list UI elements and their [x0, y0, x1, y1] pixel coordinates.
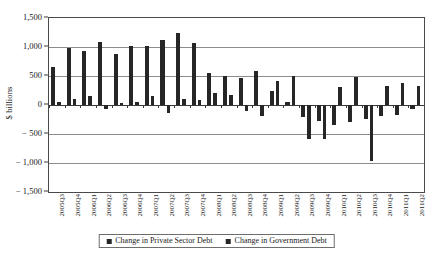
legend-item: Change in Private Sector Debt: [106, 237, 212, 245]
bar-group: [315, 18, 331, 192]
bar-private-sector-debt: [317, 105, 321, 121]
bar-private-sector-debt: [98, 42, 102, 105]
bar-government-debt: [417, 86, 421, 105]
bar-group: [393, 18, 409, 192]
bar-private-sector-debt: [82, 51, 86, 105]
bar-government-debt: [229, 95, 233, 105]
x-axis-tick-label: 2007Q4: [200, 194, 207, 217]
x-axis-tick-label: 2006Q4: [137, 194, 144, 217]
bar-government-debt: [151, 96, 155, 105]
x-axis-tick-mark: [143, 105, 144, 108]
bar-group: [299, 18, 315, 192]
y-axis-tick-label: 1,500: [23, 13, 42, 22]
bar-private-sector-debt: [176, 33, 180, 105]
bar-group: [221, 18, 237, 192]
bar-government-debt: [385, 86, 389, 105]
y-axis-tick-label: 1,000: [23, 42, 42, 51]
x-axis-tick-mark: [268, 105, 269, 108]
bar-group: [330, 18, 346, 192]
x-axis-tick-label: 2011Q2: [419, 194, 426, 216]
x-axis-tick-mark: [408, 105, 409, 108]
x-axis-tick-mark: [237, 105, 238, 108]
bar-group: [252, 18, 268, 192]
bar-group: [190, 18, 206, 192]
y-axis-tick-label: 500: [29, 71, 42, 80]
x-axis-tick-mark: [96, 105, 97, 108]
x-axis-tick-label: 2007Q1: [153, 194, 160, 217]
bar-government-debt: [88, 96, 92, 105]
bar-government-debt: [198, 100, 202, 105]
bar-government-debt: [57, 102, 61, 105]
bar-private-sector-debt: [332, 105, 336, 125]
bar-group: [65, 18, 81, 192]
bar-government-debt: [167, 105, 171, 113]
x-axis-tick-mark: [315, 105, 316, 108]
bar-group: [268, 18, 284, 192]
x-axis-tick-label: 2008Q1: [216, 194, 223, 217]
y-axis-tick-labels: 1,5001,0005000− 500− 1,000− 1,500: [8, 0, 48, 205]
x-axis-tick-mark: [299, 105, 300, 108]
bar-group: [283, 18, 299, 192]
x-axis-tick-label: 2011Q1: [403, 194, 410, 216]
bar-private-sector-debt: [364, 105, 368, 119]
x-axis-tick-label: 2010Q3: [372, 194, 379, 217]
bar-government-debt: [245, 105, 249, 111]
bar-private-sector-debt: [207, 73, 211, 105]
chart-legend: Change in Private Sector DebtChange in G…: [98, 234, 335, 248]
x-axis-tick-mark: [221, 105, 222, 108]
legend-swatch-icon: [226, 239, 231, 244]
x-axis-tick-mark: [362, 105, 363, 108]
bar-government-debt: [292, 76, 296, 105]
x-axis-tick-label: 2009Q4: [325, 194, 332, 217]
bar-government-debt: [120, 103, 124, 105]
bar-private-sector-debt: [379, 105, 383, 116]
x-axis-tick-mark: [377, 105, 378, 108]
x-axis-tick-mark: [158, 105, 159, 108]
x-axis-tick-label: 2009Q1: [278, 194, 285, 217]
x-axis-tick-label: 2005Q3: [59, 194, 66, 217]
x-axis-tick-mark: [65, 105, 66, 108]
x-axis-tick-label: 2005Q4: [75, 194, 82, 217]
legend-label: Change in Private Sector Debt: [115, 237, 212, 245]
x-axis-tick-mark: [393, 105, 394, 108]
x-axis-tick-label: 2010Q2: [356, 194, 363, 217]
x-axis-tick-mark: [252, 105, 253, 108]
bar-government-debt: [338, 87, 342, 105]
bar-private-sector-debt: [301, 105, 305, 117]
x-axis-tick-label: 2010Q4: [387, 194, 394, 217]
bar-group: [80, 18, 96, 192]
legend-swatch-icon: [106, 239, 111, 244]
x-axis-tick-label: 2006Q3: [122, 194, 129, 217]
bar-government-debt: [307, 105, 311, 139]
x-axis-tick-mark: [112, 105, 113, 108]
legend-item: Change in Government Debt: [226, 237, 327, 245]
bar-private-sector-debt: [67, 48, 71, 105]
bar-private-sector-debt: [129, 46, 133, 105]
bar-government-debt: [260, 105, 264, 116]
y-axis-tick-label: − 1,000: [16, 158, 42, 167]
bar-government-debt: [182, 99, 186, 105]
bar-government-debt: [401, 83, 405, 105]
bar-private-sector-debt: [254, 71, 258, 105]
bar-group: [127, 18, 143, 192]
x-axis-tick-label: 2007Q3: [184, 194, 191, 217]
x-axis-tick-mark: [283, 105, 284, 108]
x-axis-tick-mark: [174, 105, 175, 108]
bar-government-debt: [354, 77, 358, 105]
x-axis-tick-label: 2008Q2: [231, 194, 238, 217]
plot-area: [48, 17, 425, 193]
y-axis-tick-label: 0: [38, 100, 42, 109]
y-axis-tick-label: − 1,500: [16, 187, 42, 196]
x-axis-tick-mark: [80, 105, 81, 108]
bar-group: [205, 18, 221, 192]
x-axis-tick-mark: [49, 105, 50, 108]
bar-group: [143, 18, 159, 192]
bar-group: [377, 18, 393, 192]
x-axis-tick-label: 2008Q3: [247, 194, 254, 217]
bar-private-sector-debt: [285, 102, 289, 105]
y-axis-tick-label: − 500: [22, 129, 42, 138]
x-axis-tick-label: 2006Q2: [106, 194, 113, 217]
bar-private-sector-debt: [348, 105, 352, 122]
bar-group: [49, 18, 65, 192]
bar-private-sector-debt: [160, 40, 164, 105]
